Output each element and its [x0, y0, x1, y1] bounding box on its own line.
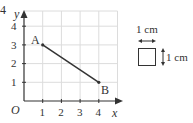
point-b-label: B — [101, 83, 109, 97]
left-arrow-icon — [138, 39, 142, 43]
y-tick-label: 3 — [11, 39, 17, 51]
scale-height-label: 1 cm — [166, 51, 188, 63]
unit-square — [139, 49, 156, 66]
x-tick-label: 2 — [58, 106, 64, 118]
x-tick-label: 4 — [96, 106, 102, 118]
diagram-canvas: 4 y x O 1 2 3 4 1 2 3 4 — [0, 0, 193, 123]
x-tick-label: 3 — [77, 106, 83, 118]
down-arrow-icon — [161, 62, 165, 66]
x-axis-label: x — [111, 106, 118, 120]
x-axis-arrow-icon — [115, 98, 123, 105]
point-a-label: A — [31, 33, 40, 47]
y-tick-label: 4 — [11, 20, 17, 32]
y-axis-label: y — [13, 7, 20, 21]
y-tick-label: 2 — [11, 57, 17, 69]
origin-label: O — [11, 103, 20, 117]
y-tick-label: 1 — [11, 76, 17, 88]
point-b — [97, 81, 100, 84]
right-arrow-icon — [152, 39, 156, 43]
question-number: 4 — [0, 3, 6, 17]
scale-width-label: 1 cm — [136, 23, 158, 35]
point-a — [41, 43, 44, 46]
scale-key: 1 cm 1 cm — [136, 23, 188, 66]
up-arrow-icon — [161, 48, 165, 52]
x-tick-label: 1 — [40, 106, 46, 118]
